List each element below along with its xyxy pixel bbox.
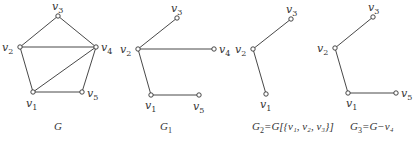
vertex-label-v1: v1	[145, 99, 156, 114]
vertex-v1	[149, 93, 153, 97]
vertex-label-v3: v3	[52, 0, 63, 15]
edge-v3-v4	[58, 16, 96, 47]
vertex-label-v1: v1	[260, 98, 271, 113]
vertex-label-v1: v1	[346, 97, 357, 112]
caption-g: G	[54, 120, 62, 132]
vertex-label-v4: v4	[101, 41, 112, 56]
vertex-v1	[346, 91, 350, 95]
vertex-v5	[394, 91, 398, 95]
vertex-label-v2: v2	[235, 43, 246, 58]
vertex-label-v2: v2	[2, 41, 13, 56]
vertex-v4	[94, 45, 98, 49]
edge-v2-v3	[138, 18, 177, 49]
vertex-v2	[18, 45, 22, 49]
vertex-label-v3: v3	[171, 2, 182, 17]
edge-v2-v3	[20, 16, 58, 47]
edge-v1-v4	[33, 47, 96, 92]
vertex-v1	[31, 90, 35, 94]
edge-v5-v4	[82, 47, 96, 92]
vertex-v5	[197, 93, 201, 97]
edge-v2-v3	[253, 19, 291, 49]
vertex-label-v3: v3	[286, 3, 297, 18]
edge-v2-v1	[335, 48, 348, 93]
vertex-label-v1: v1	[26, 97, 37, 112]
vertex-label-v5: v5	[87, 87, 98, 102]
vertex-label-v3: v3	[368, 1, 379, 16]
edge-v2-v3	[335, 17, 373, 48]
vertex-label-v4: v4	[219, 43, 230, 58]
graph-diagram: v1v2v3v4v5Gv1v2v3v4v5G1v1v2v3G2=G[{v₁, v…	[0, 0, 418, 142]
vertex-v2	[136, 47, 140, 51]
vertex-label-v5: v5	[401, 87, 412, 102]
graph-g1: v1v2v3v4v5G1	[120, 2, 230, 135]
edge-v2-v1	[20, 47, 33, 92]
vertex-label-v2: v2	[120, 43, 131, 58]
caption-g1: G1	[160, 120, 172, 135]
edge-v2-v1	[138, 49, 151, 95]
vertex-v2	[333, 46, 337, 50]
graph-g: v1v2v3v4v5G	[2, 0, 112, 132]
caption-g3: G3=G−v₄	[350, 120, 394, 135]
vertex-v2	[251, 47, 255, 51]
edge-v2-v1	[253, 49, 266, 94]
vertex-v1	[264, 92, 268, 96]
graph-g2: v1v2v3G2=G[{v₁, v₂, v₃}]	[235, 3, 334, 135]
graph-g3: v1v2v3v5G3=G−v₄	[317, 1, 412, 135]
vertex-v5	[80, 90, 84, 94]
caption-g2: G2=G[{v₁, v₂, v₃}]	[252, 120, 334, 135]
vertex-label-v5: v5	[193, 100, 204, 115]
vertex-label-v2: v2	[317, 42, 328, 57]
vertex-v4	[212, 47, 216, 51]
